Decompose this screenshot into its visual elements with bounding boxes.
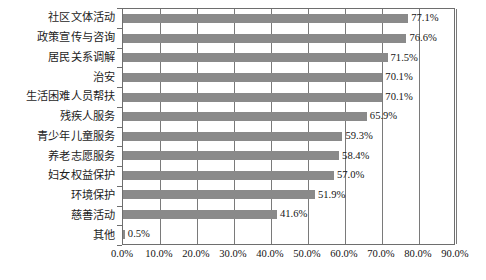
category-label: 社区文体活动 [0,8,119,28]
x-axis-tick-label: 70.0% [367,249,394,260]
bar-value-label: 77.1% [411,13,438,24]
bar-row: 70.1% [123,87,454,107]
x-axis-tick-label: 40.0% [256,249,283,260]
x-axis-tick-label: 0.0% [111,249,133,260]
bar [123,93,382,102]
category-label: 残疾人服务 [0,107,119,127]
bar-chart: 社区文体活动 政策宣传与咨询 居民关系调解 治安 生活困难人员帮扶 残疾人服务 … [0,0,486,280]
x-axis-tick-labels: 0.0%10.0%20.0%30.0%40.0%50.0%60.0%70.0%8… [0,249,486,265]
category-label: 慈善活动 [0,206,119,226]
bar-value-label: 70.1% [385,92,412,103]
bar-value-label: 70.1% [385,72,412,83]
bar-row: 51.9% [123,185,454,205]
category-label: 其他 [0,225,119,245]
bar-row: 71.5% [123,48,454,68]
bar [123,151,339,160]
bar [123,171,334,180]
bar-value-label: 65.9% [370,111,397,122]
category-label: 政策宣传与咨询 [0,28,119,48]
bar [123,190,315,199]
bar-value-label: 0.5% [128,229,150,240]
bar-row: 65.9% [123,107,454,127]
bar-row: 77.1% [123,9,454,29]
bar-row: 58.4% [123,146,454,166]
category-label: 青少年儿童服务 [0,127,119,147]
x-axis-tick-label: 60.0% [330,249,357,260]
category-label: 治安 [0,67,119,87]
category-label: 养老志愿服务 [0,146,119,166]
bar-row: 41.6% [123,205,454,225]
bar [123,53,388,62]
bar-row: 0.5% [123,224,454,244]
category-label: 妇女权益保护 [0,166,119,186]
bar-series: 77.1%76.6%71.5%70.1%70.1%65.9%59.3%58.4%… [123,9,454,244]
category-label: 居民关系调解 [0,48,119,68]
x-axis-tick-label: 50.0% [293,249,320,260]
bar-value-label: 71.5% [391,53,418,64]
bar-value-label: 51.9% [318,190,345,201]
bar-row: 76.6% [123,29,454,49]
bar-value-label: 57.0% [337,170,364,181]
gridline [456,9,457,244]
bar [123,210,277,219]
x-axis-tick-label: 10.0% [145,249,172,260]
bar-value-label: 41.6% [280,209,307,220]
bar-value-label: 76.6% [409,33,436,44]
x-axis-tick-label: 90.0% [441,249,468,260]
x-axis-tick-label: 80.0% [404,249,431,260]
bar-row: 70.1% [123,68,454,88]
bar-row: 59.3% [123,126,454,146]
y-axis-tick [117,245,122,246]
category-label: 生活困难人员帮扶 [0,87,119,107]
bar [123,230,125,239]
bar [123,112,367,121]
category-axis-labels: 社区文体活动 政策宣传与咨询 居民关系调解 治安 生活困难人员帮扶 残疾人服务 … [0,8,119,245]
bar-value-label: 59.3% [345,131,372,142]
bar [123,34,406,43]
x-axis-tick-label: 30.0% [219,249,246,260]
bar-value-label: 58.4% [342,151,369,162]
bar [123,14,408,23]
bar [123,132,342,141]
bar-row: 57.0% [123,166,454,186]
x-axis-tick-label: 20.0% [182,249,209,260]
bar [123,73,382,82]
plot-area: 77.1%76.6%71.5%70.1%70.1%65.9%59.3%58.4%… [122,8,455,245]
category-label: 环境保护 [0,186,119,206]
